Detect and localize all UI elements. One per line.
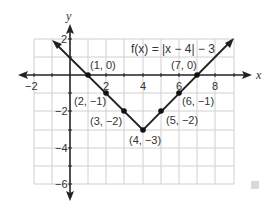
point-label: (1, 0)	[90, 59, 116, 71]
x-tick-label: −2	[25, 80, 38, 92]
point-label: (6, −1)	[182, 95, 214, 107]
x-tick-label: 2	[103, 80, 109, 92]
point-label: (7, 0)	[171, 59, 197, 71]
point-label: (3, −2)	[90, 115, 122, 127]
y-axis-label: y	[65, 9, 72, 23]
point-label: (4, −3)	[129, 134, 161, 146]
point-label: (5, −2)	[166, 114, 198, 126]
y-tick-label: 2	[61, 33, 67, 45]
corner-marker	[251, 181, 259, 189]
x-tick-label: 4	[140, 80, 146, 92]
y-tick-label: −6	[55, 178, 68, 190]
x-tick-label: 6	[176, 80, 182, 92]
x-tick-label: 8	[212, 80, 218, 92]
y-tick-label: −2	[55, 105, 68, 117]
y-tick-label: −4	[55, 142, 68, 154]
function-title: f(x) = |x − 4| − 3	[131, 42, 215, 56]
point-label: (2, −1)	[74, 95, 106, 107]
x-axis-label: x	[255, 68, 262, 82]
graph: −2 2 4 6 8 2 −2 −4 −6 y x f(x) = |x − 4|…	[0, 0, 270, 214]
